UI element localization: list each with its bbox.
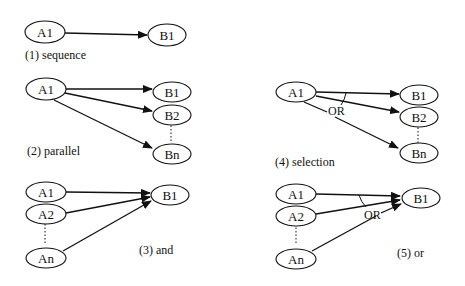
edge-an-b1 (381, 204, 401, 213)
svg-text:A2: A2 (38, 207, 54, 222)
node-b2: B2 (400, 107, 438, 127)
node-an: An (276, 249, 316, 269)
node-a1: A1 (276, 82, 316, 102)
node-a2: A2 (26, 204, 66, 224)
node-bn: Bn (153, 144, 191, 164)
edge-a1-bn (54, 100, 152, 148)
diagram-parallel: A1 B1 B2 Bn (2) parallel (26, 78, 191, 164)
edge-a1-b1 (66, 192, 150, 193)
edge-a2-b1 (66, 197, 150, 213)
node-b1: B1 (148, 24, 186, 46)
svg-text:B1: B1 (413, 191, 428, 206)
or-arc (359, 195, 366, 207)
edge-a1-b1 (316, 194, 400, 196)
svg-text:Bn: Bn (164, 147, 180, 162)
diagram-selection: OR A1 B1 B2 Bn (4) selection (275, 82, 438, 169)
node-b1: B1 (402, 188, 440, 208)
svg-text:A1: A1 (37, 25, 53, 40)
or-label: OR (364, 208, 381, 222)
caption-and: (3) and (139, 243, 173, 257)
svg-text:B2: B2 (164, 108, 179, 123)
svg-text:A1: A1 (38, 82, 54, 97)
caption-sequence: (1) sequence (25, 48, 86, 62)
node-a1: A1 (26, 78, 66, 100)
node-an: An (26, 248, 66, 268)
svg-text:A1: A1 (38, 185, 54, 200)
diagram-and: A1 A2 An B1 (3) and (26, 182, 189, 268)
node-a1: A1 (26, 182, 66, 202)
svg-text:A1: A1 (288, 187, 304, 202)
svg-text:B1: B1 (159, 28, 174, 43)
node-b1: B1 (400, 85, 438, 105)
edge-a1-b1 (316, 92, 399, 94)
edge-a1-b1 (65, 33, 147, 35)
edge-an-b1 (63, 201, 151, 251)
node-b1: B1 (153, 82, 191, 102)
or-label: OR (328, 104, 345, 118)
node-b1: B1 (151, 185, 189, 205)
node-a1: A1 (276, 184, 316, 204)
caption-selection: (4) selection (275, 155, 335, 169)
svg-text:B1: B1 (164, 85, 179, 100)
caption-or: (5) or (397, 246, 424, 260)
svg-text:A2: A2 (288, 209, 304, 224)
diagram-or: OR A1 A2 An B1 (5) or (276, 184, 440, 269)
workflow-patterns-diagram: A1 B1 (1) sequence A1 B1 B2 Bn (2) paral… (0, 0, 465, 286)
svg-text:B1: B1 (162, 188, 177, 203)
svg-text:B2: B2 (411, 110, 426, 125)
edge-a1-bn-start (304, 102, 327, 112)
caption-parallel: (2) parallel (27, 144, 81, 158)
node-a1: A1 (25, 21, 65, 43)
node-bn: Bn (400, 143, 438, 163)
edge-a1-bn (335, 117, 398, 148)
svg-text:Bn: Bn (411, 146, 427, 161)
edge-a1-b2 (65, 93, 152, 111)
diagram-sequence: A1 B1 (1) sequence (25, 21, 186, 62)
svg-text:An: An (288, 252, 304, 267)
node-a2: A2 (276, 206, 316, 226)
edge-a2-b1 (316, 200, 400, 214)
node-b2: B2 (153, 105, 191, 125)
svg-text:An: An (38, 251, 54, 266)
svg-text:A1: A1 (288, 85, 304, 100)
svg-text:B1: B1 (411, 88, 426, 103)
